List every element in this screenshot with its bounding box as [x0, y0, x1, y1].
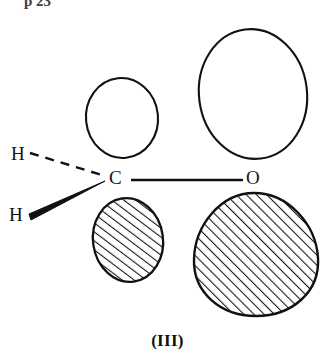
figure-container: p 23 H H C O (III) [0, 0, 335, 364]
atom-label-carbon: C [109, 168, 122, 187]
oxygen-upper-lobe [191, 23, 314, 165]
c-h-wedge-bond [29, 181, 105, 220]
c-h-dashed-bond-line [30, 153, 105, 176]
carbon-upper-lobe [82, 74, 162, 161]
carbon-lower-lobe [87, 194, 168, 287]
oxygen-lower-lobe [194, 193, 318, 316]
orbital-diagram [0, 0, 335, 364]
atom-label-h-wedge: H [9, 205, 23, 224]
atom-label-oxygen: O [246, 168, 260, 187]
atom-label-h-dashed: H [11, 144, 25, 163]
figure-caption: (III) [0, 331, 335, 351]
